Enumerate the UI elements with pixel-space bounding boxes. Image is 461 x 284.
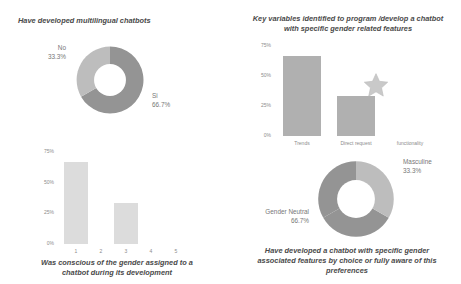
chart-panel-conscious-gender: 75% 50% 25% 0% 1 2 3 4 5 Was conscious o… [0, 140, 230, 284]
donut-callout-no: No 33.3% [20, 44, 66, 61]
chart-title-line2: chatbot during its development [12, 268, 222, 278]
ytick-label-75: 75% [251, 42, 271, 48]
donut-hole [94, 64, 126, 96]
star-glyph [363, 72, 389, 98]
donut-chart-multilingual [72, 42, 148, 118]
donut-callout-masculine-value: 33.3% [403, 167, 432, 176]
xtick-label-3: 3 [114, 248, 138, 254]
chart-title-line1: Was conscious of the gender assigned to … [12, 258, 222, 268]
donut-callout-gender-neutral: Gender Neutral 66.7% [235, 208, 309, 225]
bar-category-1 [64, 162, 88, 244]
ytick-label-75: 75% [34, 148, 54, 154]
chart-title-line1: Have developed a chatbot with specific g… [247, 246, 447, 256]
chart-title-line2: with specific gender related features [243, 24, 453, 34]
chart-title-key-variables: Key variables identified to program /dev… [243, 14, 453, 34]
donut-callout-masculine: Masculine 33.3% [403, 158, 432, 175]
donut-callout-no-value: 33.3% [20, 53, 66, 62]
xtick-label-4: 4 [139, 248, 163, 254]
donut-callout-masculine-label: Masculine [403, 158, 432, 167]
star-icon [363, 72, 389, 102]
chart-title-gender-associated-features: Have developed a chatbot with specific g… [247, 246, 447, 276]
donut-callout-si: Si 66.7% [152, 92, 170, 109]
xtick-label-direct-request: Direct request [331, 140, 381, 146]
bar-category-3 [114, 203, 138, 244]
ytick-label-50: 50% [34, 179, 54, 185]
bar-category-trends [283, 56, 321, 136]
chart-panel-multilingual-chatbots: Have developed multilingual chatbots No … [0, 0, 230, 140]
bar-plot-conscious-gender: 75% 50% 25% 0% 1 2 3 4 5 [58, 152, 182, 244]
ytick-label-50: 50% [251, 72, 271, 78]
chart-title-line3: preferences [247, 266, 447, 276]
chart-panel-key-variables: Key variables identified to program /dev… [231, 0, 461, 152]
donut-callout-gender-neutral-value: 66.7% [235, 217, 309, 226]
donut-callout-gender-neutral-label: Gender Neutral [235, 208, 309, 217]
chart-title-conscious-gender: Was conscious of the gender assigned to … [12, 258, 222, 278]
ytick-label-0: 0% [251, 132, 271, 138]
chart-panel-gender-associated-features: Masculine 33.3% Gender Neutral 66.7% Hav… [231, 150, 461, 284]
chart-title-multilingual-chatbots: Have developed multilingual chatbots [18, 16, 218, 26]
chart-title-line2: associated features by choice or fully a… [247, 256, 447, 266]
ytick-label-0: 0% [34, 240, 54, 246]
donut-callout-si-label: Si [152, 92, 170, 101]
donut-svg-multilingual [72, 42, 148, 118]
xtick-label-functionality: functionality [385, 140, 435, 146]
chart-title-line1: Key variables identified to program /dev… [243, 14, 453, 24]
bar-plot-key-variables: 75% 50% 25% 0% Trends Direct request fun… [275, 46, 425, 136]
xtick-label-1: 1 [64, 248, 88, 254]
xtick-label-2: 2 [89, 248, 113, 254]
donut-callout-si-value: 66.7% [152, 101, 170, 110]
ytick-label-25: 25% [34, 209, 54, 215]
xtick-label-trends: Trends [277, 140, 327, 146]
donut-svg-gender-features [313, 156, 399, 242]
donut-hole [337, 180, 375, 218]
bar-category-direct-request [337, 96, 375, 136]
donut-callout-no-label: No [20, 44, 66, 53]
ytick-label-25: 25% [251, 102, 271, 108]
donut-chart-gender-features [313, 156, 399, 242]
xtick-label-5: 5 [164, 248, 188, 254]
